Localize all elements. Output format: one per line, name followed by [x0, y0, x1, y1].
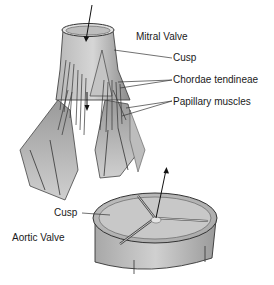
mitral-cusp-label: Cusp — [173, 52, 196, 64]
leader-mitral-cusp — [114, 50, 172, 58]
heart-valves-diagram: Mitral Valve Cusp Chordae tendineae Papi… — [0, 0, 274, 285]
papillary-muscles-label: Papillary muscles — [173, 96, 251, 108]
aortic-valve-illustration — [82, 167, 217, 274]
aortic-valve-title: Aortic Valve — [12, 232, 65, 244]
chordae-tendineae-label: Chordae tendineae — [173, 74, 258, 86]
aortic-cusp-label: Cusp — [54, 207, 77, 219]
mitral-valve-title: Mitral Valve — [136, 31, 188, 43]
leader-papillary-1 — [126, 101, 172, 108]
